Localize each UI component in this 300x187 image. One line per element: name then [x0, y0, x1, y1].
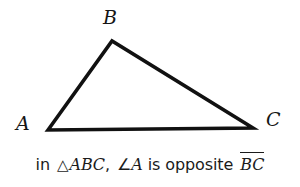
angle-symbol-icon: ∠: [115, 155, 131, 174]
caption-lead-word: in: [36, 155, 50, 174]
vertex-label-b: B: [103, 8, 117, 27]
geometry-figure: A B C in △ABC, ∠A is opposite BC: [0, 0, 300, 187]
caption-angle-vertex: A: [131, 155, 142, 174]
triangle-symbol-icon: △: [55, 156, 69, 174]
caption-relation-text: is opposite: [148, 155, 234, 174]
caption-segment-bc: BC: [240, 152, 264, 176]
triangle-abc-shape: [48, 41, 253, 130]
vertex-label-c: C: [266, 110, 281, 129]
vertex-label-a: A: [16, 114, 30, 133]
figure-caption: in △ABC, ∠A is opposite BC: [0, 152, 300, 176]
caption-triangle-name: ABC: [69, 155, 105, 174]
